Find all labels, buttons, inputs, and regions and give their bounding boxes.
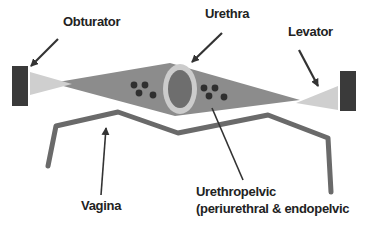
levator-muscle-wedge [296,86,338,110]
urethra-arrow [192,33,222,62]
diagram-canvas: Obturator Urethra Levator Vagina Urethro… [0,0,369,233]
label-urethropelvic-line1: Urethropelvic [196,183,349,200]
obturator-muscle-wedge [30,72,72,95]
urethra-lumen [168,70,192,108]
levator-arrow [299,50,318,86]
vagina-line [48,112,331,192]
vagina-arrow [101,128,106,195]
label-urethropelvic-line2: (periurethral & endopelvic [196,200,349,217]
levator-block [340,71,356,111]
label-urethra: Urethra [205,6,249,21]
obturator-arrow [31,39,58,66]
obturator-block [12,66,28,106]
label-obturator: Obturator [63,14,120,29]
label-levator: Levator [288,24,333,39]
label-urethropelvic: Urethropelvic (periurethral & endopelvic [196,183,349,217]
label-vagina: Vagina [81,198,121,213]
